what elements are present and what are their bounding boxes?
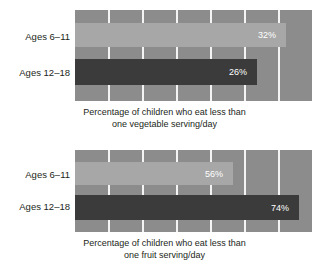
caption-line-1: Percentage of children who eat less than [40,237,289,249]
chart-caption-fruit: Percentage of children who eat less than… [40,237,289,261]
bar-value-label: 74% [271,203,289,212]
bar-ages-6-11: 56% [75,162,233,185]
category-label-ages-6-11: Ages 6–11 [0,170,70,180]
caption-line-1: Percentage of children who eat less than [40,106,289,118]
category-label-ages-12-18: Ages 12–18 [0,68,70,78]
category-label-ages-6-11: Ages 6–11 [0,32,70,42]
chart-fruit: Ages 6–11 Ages 12–18 56% 74% Percentage … [0,138,329,274]
bar-value-label: 56% [205,169,223,178]
caption-line-2: one vegetable serving/day [40,118,289,130]
bar-ages-12-18: 74% [75,195,299,220]
bar-value-label: 26% [229,68,247,77]
bar-ages-12-18: 26% [75,59,257,85]
chart-caption-vegetable: Percentage of children who eat less than… [40,106,289,130]
figure-container: Ages 6–11 Ages 12–18 32% 26% Percentage … [0,0,329,274]
plot-area-fruit: 56% 74% [75,150,312,232]
chart-vegetable: Ages 6–11 Ages 12–18 32% 26% Percentage … [0,0,329,137]
bar-value-label: 32% [258,31,276,40]
plot-area-vegetable: 32% 26% [75,10,312,101]
caption-line-2: one fruit serving/day [40,249,289,261]
category-label-ages-12-18: Ages 12–18 [0,202,70,212]
bar-ages-6-11: 32% [75,23,286,47]
